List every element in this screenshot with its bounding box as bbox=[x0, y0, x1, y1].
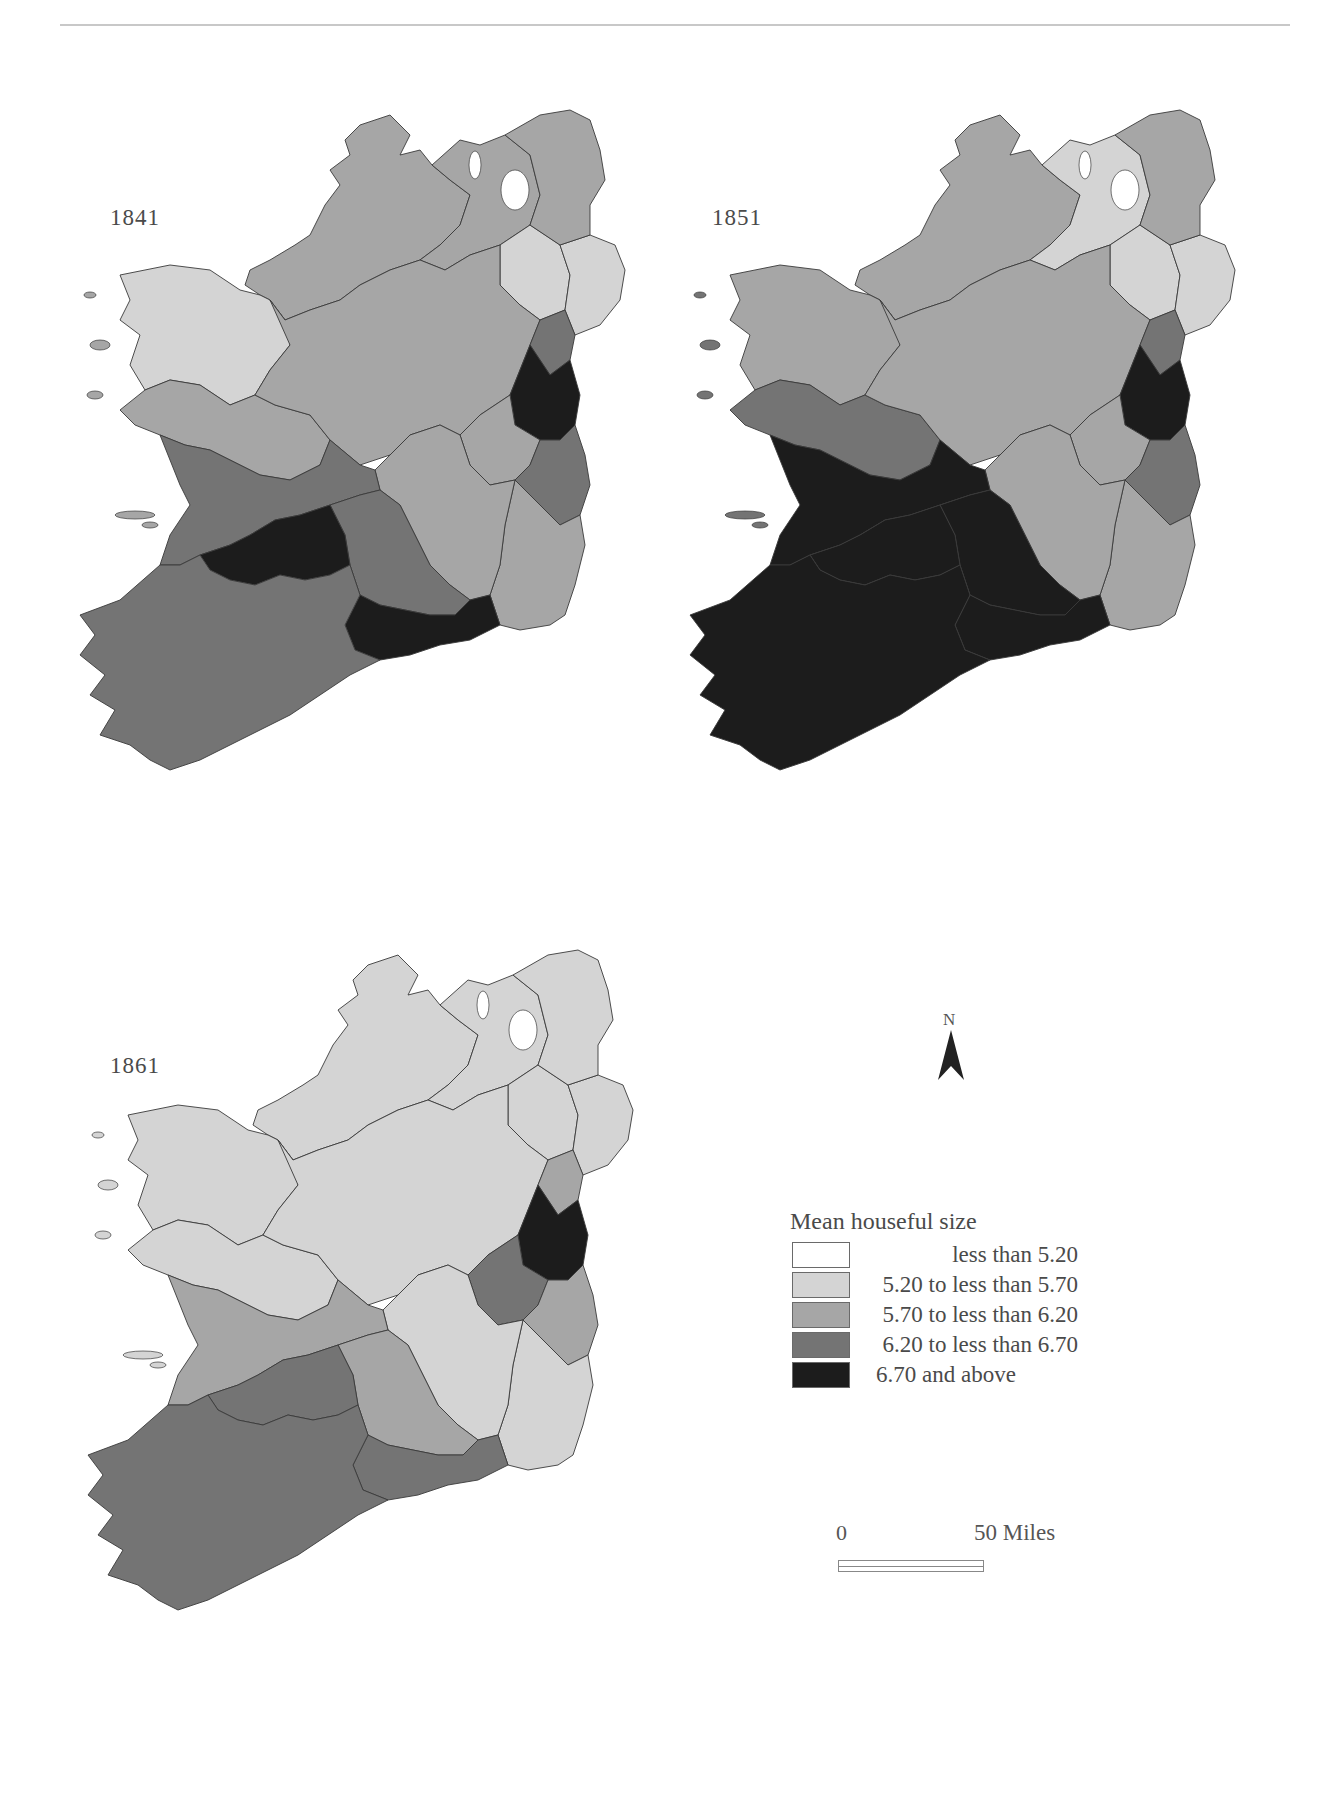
ireland-map-1851 bbox=[670, 95, 1270, 885]
island-shape bbox=[87, 391, 103, 399]
island-shape bbox=[98, 1180, 118, 1190]
lough-shape bbox=[1079, 151, 1091, 179]
scale-bar: 0 50 Miles bbox=[836, 1520, 1096, 1590]
lough-shape bbox=[501, 170, 529, 210]
legend-swatch bbox=[792, 1302, 850, 1328]
legend-label: 6.20 to less than 6.70 bbox=[883, 1331, 1079, 1359]
map-panel-1841: 1841 bbox=[60, 95, 660, 885]
north-arrow: N bbox=[936, 1010, 966, 1090]
north-arrow-icon bbox=[936, 1030, 966, 1082]
legend-label: 5.70 to less than 6.20 bbox=[883, 1301, 1079, 1329]
map-panel-1851: 1851 bbox=[660, 95, 1280, 885]
ireland-map-1861 bbox=[68, 935, 668, 1725]
island-shape bbox=[115, 511, 155, 519]
legend-item: 6.70 and above bbox=[790, 1361, 1090, 1391]
top-rule bbox=[60, 24, 1290, 26]
legend-title: Mean houseful size bbox=[790, 1208, 1090, 1235]
legend: Mean houseful size less than 5.20 5.20 t… bbox=[790, 1208, 1090, 1391]
scale-bar-graphic bbox=[838, 1560, 984, 1572]
island-shape bbox=[700, 340, 720, 350]
island-shape bbox=[725, 511, 765, 519]
legend-item: 6.20 to less than 6.70 bbox=[790, 1331, 1090, 1361]
lough-shape bbox=[469, 151, 481, 179]
island-shape bbox=[123, 1351, 163, 1359]
county-region-north-east-coast bbox=[1170, 235, 1235, 335]
legend-label: 5.20 to less than 5.70 bbox=[883, 1271, 1079, 1299]
scale-end-label: 50 Miles bbox=[974, 1520, 1055, 1546]
county-region-kerry-cork bbox=[88, 1395, 388, 1610]
legend-swatch bbox=[792, 1332, 850, 1358]
lough-shape bbox=[1111, 170, 1139, 210]
county-region-north-east-coast bbox=[568, 1075, 633, 1175]
legend-item: 5.20 to less than 5.70 bbox=[790, 1271, 1090, 1301]
legend-item: less than 5.20 bbox=[790, 1241, 1090, 1271]
county-region-north-east-coast bbox=[560, 235, 625, 335]
scale-start-label: 0 bbox=[836, 1520, 847, 1546]
ireland-map-1841 bbox=[60, 95, 660, 885]
lough-shape bbox=[477, 991, 489, 1019]
island-shape bbox=[697, 391, 713, 399]
island-shape bbox=[694, 292, 706, 298]
island-shape bbox=[95, 1231, 111, 1239]
island-shape bbox=[142, 522, 158, 528]
legend-swatch bbox=[792, 1362, 850, 1388]
county-region-kerry-cork bbox=[80, 555, 380, 770]
island-shape bbox=[752, 522, 768, 528]
island-shape bbox=[84, 292, 96, 298]
island-shape bbox=[150, 1362, 166, 1368]
legend-label: 6.70 and above bbox=[876, 1361, 1016, 1389]
legend-item: 5.70 to less than 6.20 bbox=[790, 1301, 1090, 1331]
lough-shape bbox=[509, 1010, 537, 1050]
north-label: N bbox=[943, 1010, 955, 1030]
legend-label: less than 5.20 bbox=[952, 1241, 1078, 1269]
county-region-kerry-cork bbox=[690, 555, 990, 770]
island-shape bbox=[90, 340, 110, 350]
island-shape bbox=[92, 1132, 104, 1138]
legend-swatch bbox=[792, 1272, 850, 1298]
legend-swatch bbox=[792, 1242, 850, 1268]
map-panel-1861: 1861 bbox=[60, 945, 680, 1745]
